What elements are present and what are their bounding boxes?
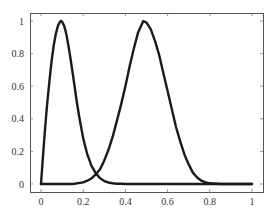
y-tick-label: 0 [19, 179, 24, 190]
x-tick-label: 0.6 [161, 196, 174, 207]
x-tick-label: 1 [250, 196, 255, 207]
y-tick-label: 0.2 [12, 146, 25, 157]
plot-frame [31, 14, 264, 193]
y-axis-ticks: 00.20.40.60.81 [12, 16, 264, 190]
x-tick-label: 0 [39, 196, 44, 207]
chart: 00.20.40.60.81 00.20.40.60.81 [0, 0, 278, 214]
y-tick-label: 0.4 [12, 113, 25, 124]
curve-1-line [41, 21, 252, 184]
y-tick-label: 1 [19, 16, 24, 27]
y-tick-label: 0.6 [12, 81, 25, 92]
series-group [41, 21, 252, 184]
x-tick-label: 0.4 [119, 196, 132, 207]
y-tick-label: 0.8 [12, 48, 25, 59]
curve-2-line [41, 21, 252, 184]
x-axis-ticks: 00.20.40.60.81 [39, 13, 255, 207]
x-tick-label: 0.2 [77, 196, 90, 207]
x-tick-label: 0.8 [204, 196, 217, 207]
